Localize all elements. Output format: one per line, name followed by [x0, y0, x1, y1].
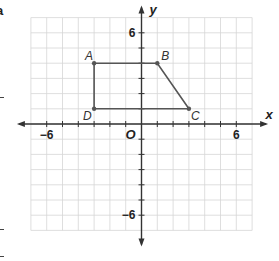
axis-labels: −666−6Oxy	[40, 2, 274, 223]
y-axis-up-arrow-icon	[139, 6, 145, 14]
x-axis-label: x	[264, 107, 273, 122]
vertex-label-c: C	[191, 109, 200, 123]
coordinate-plane: ABCD −666−6Oxy	[0, 0, 279, 261]
y-tick-label: 6	[129, 26, 136, 40]
origin-label: O	[125, 127, 135, 142]
y-axis-label: y	[149, 2, 158, 17]
x-tick-label: −6	[40, 128, 54, 142]
vertex-label-b: B	[161, 49, 169, 63]
vertex-label-a: A	[84, 49, 93, 63]
y-axis-down-arrow-icon	[139, 238, 145, 246]
x-axis-left-arrow-icon	[17, 121, 25, 127]
axes	[17, 6, 268, 247]
vertex-point	[155, 61, 159, 65]
x-tick-label: 6	[233, 128, 240, 142]
vertex-label-d: D	[83, 109, 92, 123]
vertex-point	[92, 107, 96, 111]
y-tick-label: −6	[122, 208, 136, 222]
